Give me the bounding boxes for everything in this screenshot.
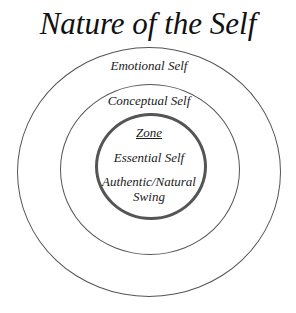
swing-line: Swing [133,189,165,204]
zone-heading: Zone [49,125,249,140]
authentic-natural-swing-label: Authentic/Natural Swing [49,174,249,204]
essential-self-label: Essential Self [49,150,249,165]
emotional-self-label: Emotional Self [49,58,249,73]
diagram-title: Nature of the Self [0,6,296,42]
authentic-natural-line: Authentic/Natural [102,174,196,189]
conceptual-self-label: Conceptual Self [49,93,249,108]
